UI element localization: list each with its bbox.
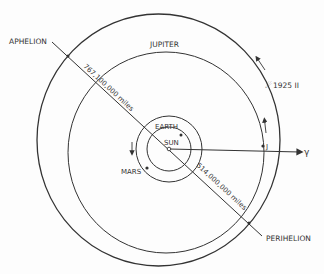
- earth-label: EARTH: [155, 123, 178, 131]
- jupiter-motion-arrow: [265, 120, 267, 133]
- sun-marker: [167, 147, 171, 151]
- orbit-diagram: ☄ APHELION PERIHELION JUPITER EARTH SUN …: [0, 0, 324, 274]
- earth-dot: [180, 134, 183, 137]
- jupiter-label: JUPITER: [149, 40, 179, 49]
- mars-label: MARS: [121, 168, 142, 176]
- aphelion-point: [67, 55, 70, 58]
- sun-label: SUN: [164, 139, 179, 147]
- aphelion-distance-label: 767,100,000 miles: [82, 63, 136, 113]
- jupiter-dot: [261, 144, 264, 147]
- perihelion-label: PERIHELION: [266, 234, 311, 243]
- gamma-axis: [169, 149, 300, 152]
- jupiter-position-label: J: [265, 143, 268, 151]
- perihelion-distance-label: 514,000,000 miles: [195, 162, 249, 212]
- mars-dot: [145, 166, 148, 169]
- aphelion-label: APHELION: [9, 37, 47, 46]
- comet-marker-icon: ☄: [265, 80, 272, 90]
- gamma-label: γ: [304, 147, 310, 157]
- perihelion-point: [248, 222, 251, 225]
- orbit-diagram-svg: ☄ APHELION PERIHELION JUPITER EARTH SUN …: [0, 0, 324, 274]
- comet-label: 1925 II: [273, 81, 299, 90]
